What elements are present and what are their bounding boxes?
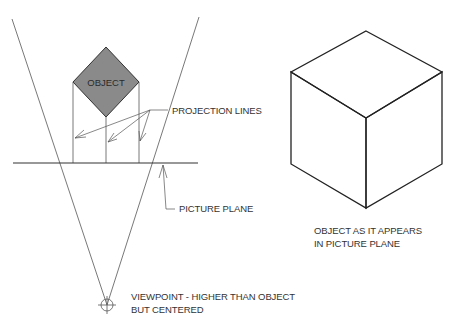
object-label: OBJECT	[87, 77, 125, 88]
projection-lines-label: PROJECTION LINES	[172, 105, 262, 116]
viewpoint-icon	[98, 296, 116, 314]
result-label-line2: IN PICTURE PLANE	[314, 238, 400, 249]
viewpoint-label-line1: VIEWPOINT - HIGHER THAN OBJECT	[131, 291, 295, 302]
projection-lines-callout	[75, 110, 168, 142]
cone-of-vision-right	[107, 17, 199, 305]
picture-plane-callout	[159, 165, 175, 209]
cube-drawing	[291, 31, 442, 208]
result-label-line1: OBJECT AS IT APPEARS	[314, 225, 422, 236]
viewpoint-label-line2: BUT CENTERED	[131, 304, 204, 315]
picture-plane-label: PICTURE PLANE	[179, 203, 253, 214]
perspective-diagram: OBJECT PROJECTION LINES PICTURE PLANE VI…	[0, 0, 456, 328]
